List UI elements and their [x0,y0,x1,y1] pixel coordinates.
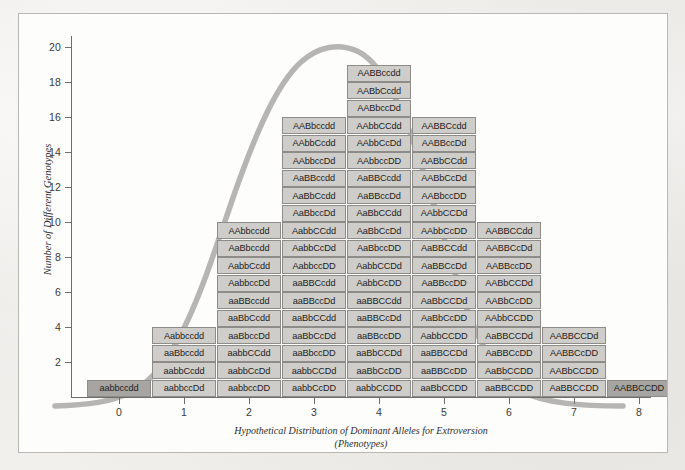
genotype-cell: aaBBccDd [282,292,346,309]
genotype-cell: aabbCCdd [217,345,281,362]
y-tick-mark [65,117,71,118]
y-tick-label: 6 [39,286,61,298]
genotype-cell: AABbCCdd [412,152,476,169]
genotype-cell: AabbccDD [282,257,346,274]
genotype-cell: AABbCCDd [477,275,541,292]
genotype-cell: AAbbccdd [217,222,281,239]
x-axis-title: Hypothetical Distribution of Dominant Al… [71,424,651,450]
genotype-cell: aaBBCCdd [347,292,411,309]
genotype-cell: aaBBCcdd [282,275,346,292]
y-tick-mark [65,292,71,293]
genotype-cell: AabbCCDD [412,327,476,344]
genotype-cell: AaBBCcDD [477,345,541,362]
genotype-cell: AABBccDD [477,257,541,274]
x-axis-title-line1: Hypothetical Distribution of Dominant Al… [234,425,487,436]
x-tick-label: 5 [432,406,456,418]
genotype-cell: AABBCcDd [477,240,541,257]
genotype-cell: aaBbccDd [217,327,281,344]
genotype-cell: AABBccdd [347,65,411,82]
genotype-cell: AaBbCCDd [412,292,476,309]
genotype-cell: AABBCcdd [412,117,476,134]
y-axis-title: Number of Different Genotypes [42,110,53,310]
genotype-cell: AaBBccdd [282,170,346,187]
genotype-cell: AABbCcDD [477,292,541,309]
x-tick-mark [574,398,575,404]
genotype-cell: aabbccDd [152,380,216,397]
genotype-cell: aaBBccdd [217,292,281,309]
x-tick-label: 3 [302,406,326,418]
x-tick-mark [184,398,185,404]
genotype-cell: AaBbCCDD [477,362,541,379]
genotype-cell: AaBbCcDD [412,310,476,327]
y-tick-label: 4 [39,321,61,333]
y-tick-mark [65,257,71,258]
genotype-cell: AabbCcDD [347,275,411,292]
genotype-cell: aaBbCCdd [282,310,346,327]
y-tick-label: 14 [39,146,61,158]
genotype-cell: AABbccDd [347,100,411,117]
x-tick-label: 7 [562,406,586,418]
genotype-cell: aabbccDD [217,380,281,397]
genotype-cell: AABbCcdd [347,82,411,99]
y-tick-mark [65,47,71,48]
genotype-cell: AaBbCcDd [347,222,411,239]
genotype-cell: Aabbccdd [152,327,216,344]
genotype-cell: AaBbccDd [282,205,346,222]
x-axis-title-line2: (Phenotypes) [71,437,651,450]
genotype-cell: AabbccDd [217,275,281,292]
genotype-cell: AABbccdd [282,117,346,134]
genotype-cell: AAbbCcDD [412,222,476,239]
y-tick-label: 2 [39,356,61,368]
genotype-cell: AabbCcDd [282,240,346,257]
x-tick-label: 8 [627,406,651,418]
genotype-cell: aaBbCCDD [412,380,476,397]
genotype-cell: aabbccdd [87,380,151,397]
genotype-cell: AAbbCCDD [477,310,541,327]
y-tick-mark [65,327,71,328]
y-tick-mark [65,152,71,153]
y-tick-mark [65,222,71,223]
genotype-cell: AaBBccDd [347,187,411,204]
genotype-cell: aabbCcdd [152,362,216,379]
y-tick-mark [65,362,71,363]
genotype-cell: AAbbCCdd [347,117,411,134]
genotype-cell: AaBbccDD [347,240,411,257]
x-tick-label: 6 [497,406,521,418]
genotype-cell: AAbbCcDd [347,135,411,152]
genotype-cell: aaBBCCDD [477,380,541,397]
y-tick-label: 18 [39,76,61,88]
y-tick-label: 10 [39,216,61,228]
genotype-cell: AABbCCDD [542,362,606,379]
genotype-cell: aabbCCDD [347,380,411,397]
genotype-cell: AAbbCcdd [282,135,346,152]
genotype-cell: aabbCcDD [282,380,346,397]
genotype-cell: AaBBCcDd [412,257,476,274]
x-tick-mark [444,398,445,404]
y-axis-line [71,36,72,398]
genotype-cell: AaBBCCDd [477,327,541,344]
genotype-cell: AABbCcDd [412,170,476,187]
y-tick-label: 16 [39,111,61,123]
genotype-cell: aabbCCDd [282,362,346,379]
x-tick-mark [314,398,315,404]
genotype-cell: AABBCCDD [607,380,668,397]
x-tick-label: 0 [107,406,131,418]
genotype-cell: AaBBCCdd [412,240,476,257]
genotype-cell: aaBbCcdd [217,310,281,327]
genotype-cell: aaBbCCDd [347,345,411,362]
genotype-cell: AAbbccDD [347,152,411,169]
genotype-cell: AabbCcdd [217,257,281,274]
genotype-cell: AABBccDd [412,135,476,152]
x-tick-label: 1 [172,406,196,418]
genotype-cell: AaBBccDD [412,275,476,292]
genotype-cell: AABbccDD [412,187,476,204]
genotype-cell: AABBCcDD [542,345,606,362]
genotype-cell: aaBbCcDD [347,362,411,379]
y-tick-label: 20 [39,41,61,53]
genotype-cell: aaBBCcDD [412,362,476,379]
y-tick-label: 8 [39,251,61,263]
genotype-cell: aaBbccDD [282,345,346,362]
x-tick-mark [639,398,640,404]
x-tick-mark [509,398,510,404]
genotype-cell: AabbCCdd [282,222,346,239]
